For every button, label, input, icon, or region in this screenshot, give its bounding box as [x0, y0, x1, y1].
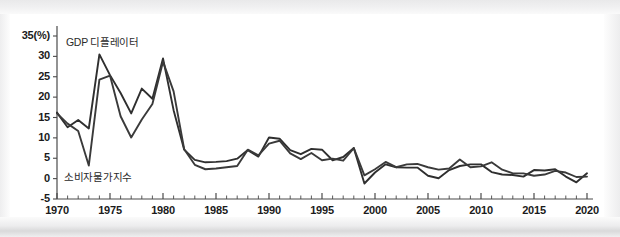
scan-artifact-bottom — [0, 217, 620, 237]
y-tick-label-10: 10 — [0, 132, 50, 143]
series-label-gdp-deflator: GDP 디플레이터 — [66, 34, 139, 49]
plot-area: 35(%) 30 25 20 15 10 5 0 -5 1970 1975 19… — [0, 0, 620, 237]
series-label-cpi: 소비자물가지수 — [64, 169, 132, 184]
x-tick-label-2010: 2010 — [456, 205, 506, 216]
x-tick-label-1970: 1970 — [32, 205, 82, 216]
x-tick-label-1990: 1990 — [244, 205, 294, 216]
x-tick-label-2000: 2000 — [350, 205, 400, 216]
x-tick-label-2020: 2020 — [562, 205, 612, 216]
y-tick-label-5: 5 — [0, 152, 50, 163]
series-line-gdp-deflator — [57, 54, 587, 183]
chart-screenshot: 35(%) 30 25 20 15 10 5 0 -5 1970 1975 19… — [0, 0, 620, 237]
x-tick-label-2015: 2015 — [509, 205, 559, 216]
y-tick-label-15: 15 — [0, 112, 50, 123]
x-tick-label-2005: 2005 — [403, 205, 453, 216]
y-tick-label-25: 25 — [0, 71, 50, 82]
series-line-cpi — [57, 62, 587, 177]
y-tick-label-30: 30 — [0, 50, 50, 61]
y-tick-label-35: 35(%) — [0, 30, 50, 41]
x-tick-label-1980: 1980 — [138, 205, 188, 216]
y-tick-label-20: 20 — [0, 91, 50, 102]
y-tick-label-minus5: -5 — [0, 193, 50, 204]
x-tick-label-1975: 1975 — [85, 205, 135, 216]
x-tick-label-1995: 1995 — [297, 205, 347, 216]
x-tick-label-1985: 1985 — [191, 205, 241, 216]
y-tick-label-0: 0 — [0, 173, 50, 184]
